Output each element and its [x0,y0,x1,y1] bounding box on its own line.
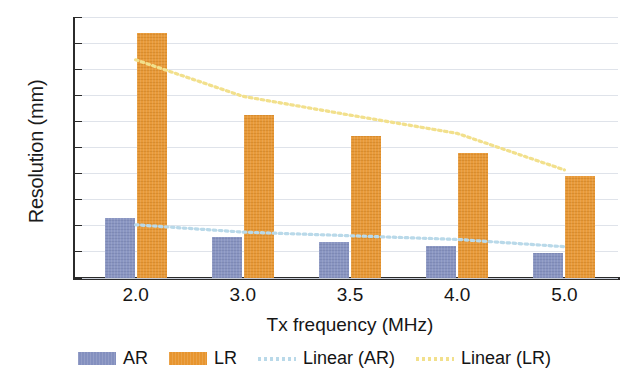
bar-lr-3.5 [351,136,381,278]
y-tick-mark [73,147,82,148]
bar-lr-4.0 [458,153,488,278]
plot-area: 0.00.51.01.52.02.53.03.54.04.55.0 [82,17,618,278]
bar-lr-5.0 [565,176,595,278]
y-tick-mark [73,43,82,44]
resolution-vs-frequency-chart: Resolution (mm) 0.00.51.01.52.02.53.03.5… [0,0,629,387]
x-axis-title: Tx frequency (MHz) [82,314,618,336]
legend-swatch-icon [78,352,116,365]
bar-ar-2.0 [105,218,135,278]
y-axis-line [73,17,75,279]
legend-item[interactable]: AR [78,348,148,369]
y-tick-mark [73,173,82,174]
legend-label: Linear (AR) [303,348,395,369]
legend-swatch-icon [258,357,296,361]
legend-swatch-icon [416,357,454,361]
y-tick-mark [73,278,82,279]
bar-group [212,17,274,278]
x-tick-label: 3.0 [203,284,283,306]
legend-label: AR [123,348,148,369]
bar-lr-2.0 [137,33,167,278]
bar-ar-3.5 [319,242,349,278]
legend-item[interactable]: Linear (AR) [258,348,395,369]
legend-label: LR [214,348,237,369]
bar-group [319,17,381,278]
bar-ar-3.0 [212,237,242,278]
y-tick-mark [73,17,82,18]
x-tick-label: 2.0 [96,284,176,306]
x-tick-label: 4.0 [417,284,497,306]
bar-ar-5.0 [533,253,563,278]
bar-lr-3.0 [244,115,274,278]
legend-item[interactable]: Linear (LR) [416,348,551,369]
x-tick-label: 5.0 [524,284,604,306]
legend-label: Linear (LR) [461,348,551,369]
x-tick-label: 3.5 [310,284,390,306]
y-tick-mark [73,251,82,252]
bar-group [105,17,167,278]
legend-item[interactable]: LR [169,348,237,369]
legend-swatch-icon [169,352,207,365]
bar-ar-4.0 [426,246,456,278]
bar-group [533,17,595,278]
y-tick-mark [73,225,82,226]
chart-legend: ARLRLinear (AR)Linear (LR) [0,348,629,369]
y-tick-mark [73,95,82,96]
y-tick-mark [73,121,82,122]
y-axis-title: Resolution (mm) [25,22,48,282]
bar-group [426,17,488,278]
y-tick-mark [73,69,82,70]
y-tick-mark [73,199,82,200]
